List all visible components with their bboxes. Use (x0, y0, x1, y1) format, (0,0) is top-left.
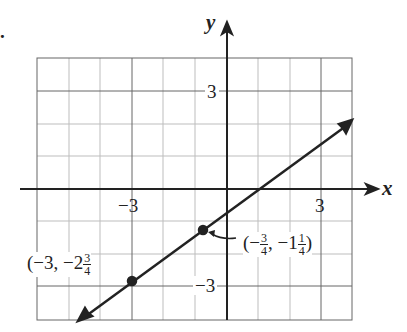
x-axis-label: x (382, 178, 393, 199)
point-neg3-4ths (199, 226, 207, 234)
x-tick-neg3: −3 (118, 196, 138, 215)
y-axis-label: y (206, 12, 215, 33)
point-label-1: (−3, −234 (27, 252, 91, 277)
y-tick-neg3: −3 (193, 276, 217, 295)
point-label-2: (−34, −114) (243, 232, 312, 257)
y-tick-3: 3 (205, 82, 219, 101)
problem-marker: . (0, 22, 5, 41)
x-tick-3: 3 (315, 196, 325, 215)
point-neg3 (128, 277, 136, 285)
callout-arrow (212, 234, 236, 239)
